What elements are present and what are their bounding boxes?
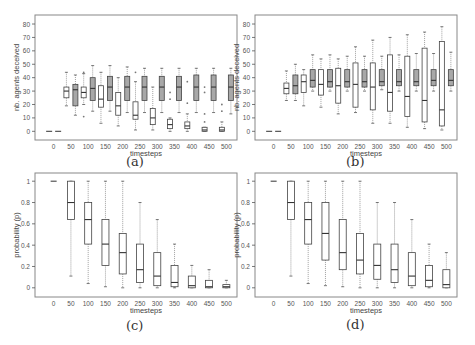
chart-a: 01020304050607080nb. agents deceived0501… <box>12 15 237 158</box>
box-white <box>287 181 294 276</box>
y-tick-label: 80 <box>243 21 251 28</box>
plot-frame <box>35 15 237 140</box>
box-grey <box>379 56 384 90</box>
box-iqr <box>408 253 415 286</box>
box-iqr <box>422 48 427 122</box>
box-white <box>64 72 69 106</box>
outlier-point <box>186 81 188 83</box>
x-tick-label: 350 <box>389 143 400 150</box>
box-white <box>133 71 138 130</box>
box-white <box>374 203 381 288</box>
box-iqr <box>339 220 346 270</box>
box-iqr <box>301 75 306 92</box>
y-tick-label: 0.8 <box>241 199 250 206</box>
box-white <box>185 81 190 132</box>
box-iqr <box>102 220 109 266</box>
box-iqr <box>318 70 323 95</box>
box-iqr <box>90 78 95 101</box>
chart-b: 01020304050607080nb. agents deceived0501… <box>232 15 457 158</box>
y-tick-label: 40 <box>23 74 31 81</box>
y-tick-label: 0.4 <box>241 242 250 249</box>
box-white <box>81 71 86 117</box>
outlier-point <box>135 71 137 73</box>
x-tick-label: 200 <box>117 143 128 150</box>
box-grey <box>293 64 298 100</box>
box-white <box>219 104 224 132</box>
x-tick-label: 50 <box>67 143 75 150</box>
x-tick-label: 500 <box>441 143 452 150</box>
box-grey <box>90 66 95 112</box>
box-iqr <box>119 233 126 274</box>
box-iqr <box>405 56 410 116</box>
y-tick-label: 60 <box>23 47 31 54</box>
box-iqr <box>379 70 384 86</box>
x-tick-label: 400 <box>186 143 197 150</box>
box-iqr <box>374 244 381 279</box>
x-tick-label: 100 <box>303 300 314 307</box>
y-tick-label: 1 <box>246 178 250 185</box>
y-tick-label: 0 <box>26 284 30 291</box>
box-grey <box>362 56 367 91</box>
box-white <box>426 244 433 288</box>
box-white <box>305 181 312 283</box>
y-tick-label: 20 <box>23 101 31 108</box>
box-white <box>318 59 323 107</box>
y-axis-label: nb. agents deceived <box>232 44 241 111</box>
box-white <box>67 181 74 276</box>
box-iqr <box>168 119 173 128</box>
outlier-point <box>169 92 171 94</box>
outlier-point <box>204 113 206 115</box>
box-iqr <box>414 70 419 86</box>
outlier-point <box>169 98 171 100</box>
box-white <box>85 181 92 283</box>
y-axis-label: probability (p) <box>232 212 241 258</box>
box-white <box>168 92 173 132</box>
box-iqr <box>64 87 69 98</box>
box-iqr <box>154 253 161 286</box>
box-iqr <box>357 233 364 274</box>
box-iqr <box>391 244 398 282</box>
box-white <box>284 71 289 101</box>
box-white <box>98 72 103 123</box>
box-white <box>171 244 178 288</box>
box-white <box>188 265 195 287</box>
box-iqr <box>107 76 112 100</box>
box-iqr <box>202 127 207 131</box>
box-iqr <box>310 70 315 87</box>
box-grey <box>211 68 216 112</box>
box-iqr <box>287 181 294 219</box>
box-white <box>322 181 329 285</box>
outlier-point <box>186 102 188 104</box>
box-white <box>150 87 155 130</box>
box-iqr <box>353 63 358 107</box>
box-white <box>339 181 346 287</box>
y-tick-label: 0.2 <box>241 263 250 270</box>
x-tick-label: 100 <box>303 143 314 150</box>
box-iqr <box>345 70 350 87</box>
box-iqr <box>211 75 216 100</box>
box-iqr <box>448 70 453 86</box>
x-tick-label: 450 <box>204 300 215 307</box>
box-iqr <box>67 181 74 219</box>
box-white <box>119 181 126 288</box>
box-iqr <box>116 92 121 115</box>
box-iqr <box>159 76 164 100</box>
x-tick-label: 500 <box>221 300 232 307</box>
y-tick-label: 0.4 <box>21 242 30 249</box>
box-white <box>405 35 410 128</box>
box-grey <box>142 68 147 112</box>
x-tick-label: 200 <box>117 300 128 307</box>
x-tick-label: 200 <box>337 143 348 150</box>
box-grey <box>107 66 112 112</box>
panel-label-d: (d) <box>346 317 364 332</box>
box-iqr <box>150 109 155 125</box>
box-iqr <box>431 70 436 86</box>
y-tick-label: 0.2 <box>21 263 30 270</box>
y-tick-label: 20 <box>243 101 251 108</box>
box-iqr <box>125 76 130 100</box>
x-tick-label: 500 <box>221 143 232 150</box>
box-iqr <box>185 122 190 129</box>
x-tick-label: 200 <box>337 300 348 307</box>
box-grey <box>159 68 164 112</box>
y-tick-label: 0 <box>26 128 30 135</box>
